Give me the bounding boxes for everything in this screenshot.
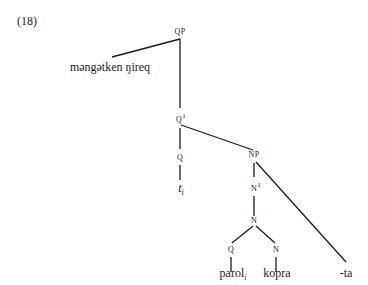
- leaf-kopra: kopra: [263, 266, 290, 281]
- node-n: N: [251, 216, 257, 225]
- node-qp: QP: [175, 27, 186, 36]
- leaf-ta: -ta: [340, 266, 353, 281]
- node-q: Q: [177, 153, 183, 162]
- node-n1: N1: [251, 181, 261, 193]
- node-np: NP: [249, 150, 260, 159]
- leaf-parol: paroli: [220, 266, 247, 282]
- leaf-trace: ti: [178, 181, 184, 197]
- example-number: (18): [17, 14, 37, 29]
- tree-branches: [0, 0, 368, 285]
- node-n-lower: N: [273, 245, 279, 254]
- node-q1: Q1: [176, 112, 186, 124]
- node-q-lower: Q: [228, 245, 234, 254]
- leaf-spec: məngətken ŋireq: [70, 60, 150, 75]
